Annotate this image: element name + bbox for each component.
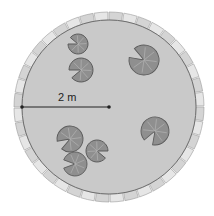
radius-label: 2 m: [58, 91, 76, 103]
pond-diagram: 2 m: [0, 0, 214, 216]
pond-drawing: [0, 0, 214, 216]
